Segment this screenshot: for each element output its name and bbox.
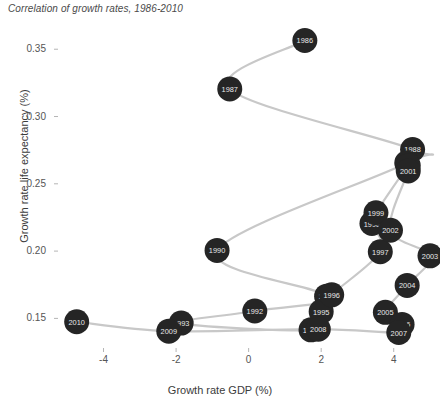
data-point[interactable]: 2002 bbox=[378, 218, 403, 243]
data-point-markers: 1986198719881989199019911992199319941995… bbox=[64, 28, 440, 345]
data-point[interactable]: 2009 bbox=[156, 319, 181, 344]
data-point-circle[interactable] bbox=[306, 317, 331, 342]
data-point-circle[interactable] bbox=[217, 76, 242, 101]
data-point[interactable]: 1986 bbox=[292, 28, 317, 53]
data-point-circle[interactable] bbox=[418, 243, 440, 268]
data-point-circle[interactable] bbox=[395, 273, 420, 298]
data-point-circle[interactable] bbox=[378, 218, 403, 243]
data-point-circle[interactable] bbox=[319, 282, 344, 307]
data-point[interactable]: 1997 bbox=[368, 239, 393, 264]
data-point[interactable]: 2007 bbox=[386, 320, 411, 345]
data-point[interactable]: 2010 bbox=[64, 309, 89, 334]
data-point[interactable]: 1987 bbox=[217, 76, 242, 101]
data-point[interactable]: 1992 bbox=[242, 298, 267, 323]
data-point-circle[interactable] bbox=[205, 238, 230, 263]
series-connector-line bbox=[77, 40, 433, 332]
chart-container: Correlation of growth rates, 1986-2010 G… bbox=[0, 0, 440, 404]
data-point-circle[interactable] bbox=[242, 298, 267, 323]
data-point-circle[interactable] bbox=[368, 239, 393, 264]
data-point[interactable]: 2001 bbox=[396, 159, 421, 184]
data-point[interactable]: 2008 bbox=[306, 317, 331, 342]
data-point[interactable]: 2004 bbox=[395, 273, 420, 298]
plot-area: 1986198719881989199019911992199319941995… bbox=[0, 0, 440, 404]
data-point[interactable]: 2003 bbox=[418, 243, 440, 268]
data-point-circle[interactable] bbox=[292, 28, 317, 53]
data-point-circle[interactable] bbox=[386, 320, 411, 345]
data-point-circle[interactable] bbox=[156, 319, 181, 344]
data-point[interactable]: 1990 bbox=[205, 238, 230, 263]
data-point[interactable]: 1996 bbox=[319, 282, 344, 307]
data-point-circle[interactable] bbox=[396, 159, 421, 184]
data-point-circle[interactable] bbox=[64, 309, 89, 334]
